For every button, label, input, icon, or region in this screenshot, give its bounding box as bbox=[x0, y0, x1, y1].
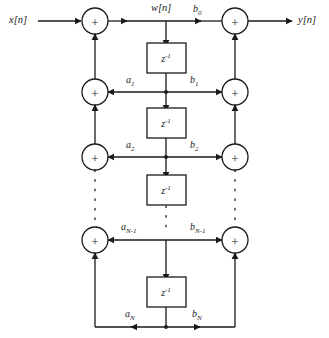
coefficient-a1-label: a1 bbox=[126, 75, 135, 88]
summer-left-0-plus: + bbox=[91, 15, 98, 30]
summer-right-0-plus: + bbox=[231, 15, 238, 30]
summer-right-1-plus: + bbox=[231, 86, 238, 101]
summer-left-3-plus: + bbox=[91, 234, 98, 249]
summer-right-3-plus: + bbox=[231, 234, 238, 249]
coefficient-bN1-label: bN-1 bbox=[190, 222, 206, 235]
coefficient-a2-label: a2 bbox=[126, 140, 135, 153]
input-signal-label: x[n] bbox=[9, 15, 27, 26]
diagram-svg: + + + + + + + + z-1 z-1 z-1 z-1 bbox=[0, 0, 329, 338]
coefficient-bN-label: bN bbox=[192, 309, 202, 322]
coefficient-b1-label: b1 bbox=[190, 75, 199, 88]
intermediate-signal-label: w[n] bbox=[151, 3, 171, 14]
coefficient-b2-label: b2 bbox=[190, 140, 199, 153]
output-signal-label: y[n] bbox=[298, 15, 316, 26]
summer-left-2-plus: + bbox=[91, 151, 98, 166]
coefficient-b0-label: b0 bbox=[193, 4, 202, 17]
coefficient-aN-label: aN bbox=[125, 309, 135, 322]
junction-dot-bottom bbox=[164, 325, 168, 329]
summer-right-2-plus: + bbox=[231, 151, 238, 166]
signal-flow-diagram: + + + + + + + + z-1 z-1 z-1 z-1 x[n] bbox=[0, 0, 329, 338]
summer-left-1-plus: + bbox=[91, 86, 98, 101]
coefficient-aN1-label: aN-1 bbox=[121, 222, 137, 235]
